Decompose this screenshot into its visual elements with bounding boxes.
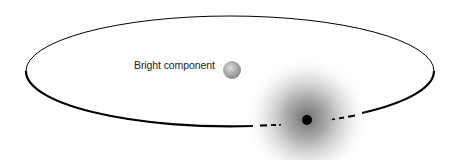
obscuring-cloud <box>245 56 369 160</box>
orbit-diagram <box>0 0 456 160</box>
orbit-lower-right-arc <box>362 71 434 113</box>
companion-dot <box>302 115 312 125</box>
orbit-lower-left-arc <box>26 71 253 126</box>
bright-component-sphere <box>223 61 241 79</box>
bright-component-label: Bright component <box>134 59 215 71</box>
